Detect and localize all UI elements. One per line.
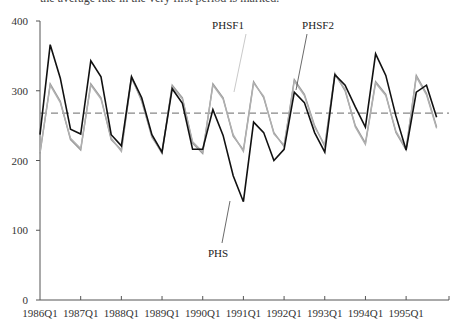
y-tick-label: 300 xyxy=(12,85,29,97)
x-tick-label: 1993Q1 xyxy=(307,307,342,319)
y-tick-label: 0 xyxy=(23,294,29,306)
phsf1-pointer xyxy=(234,34,246,92)
phsf1-label: PHSF1 xyxy=(212,19,244,31)
annotations: PHSF1 PHSF2 PHS xyxy=(208,19,334,259)
x-tick-label: 1989Q1 xyxy=(144,307,179,319)
x-tick-label: 1990Q1 xyxy=(185,307,220,319)
x-tick-label: 1994Q1 xyxy=(348,307,383,319)
x-tick-label: 1988Q1 xyxy=(104,307,139,319)
x-tick-label: 1986Q1 xyxy=(22,307,57,319)
y-tick-label: 100 xyxy=(12,224,29,236)
series-lines xyxy=(40,45,437,202)
y-tick-label: 400 xyxy=(12,15,29,27)
x-tick-label: 1995Q1 xyxy=(388,307,423,319)
x-tick-label: 1992Q1 xyxy=(266,307,301,319)
x-tick-label: 1987Q1 xyxy=(63,307,98,319)
line-chart: 01002003004001986Q11987Q11988Q11989Q1199… xyxy=(0,0,462,328)
phsf2-label: PHSF2 xyxy=(302,19,334,31)
x-tick-label: 1991Q1 xyxy=(226,307,261,319)
phs-pointer xyxy=(222,201,230,243)
phsf2-pointer xyxy=(296,34,307,90)
phs-label: PHS xyxy=(208,247,228,259)
y-tick-label: 200 xyxy=(12,155,29,167)
phs-line xyxy=(40,45,437,202)
